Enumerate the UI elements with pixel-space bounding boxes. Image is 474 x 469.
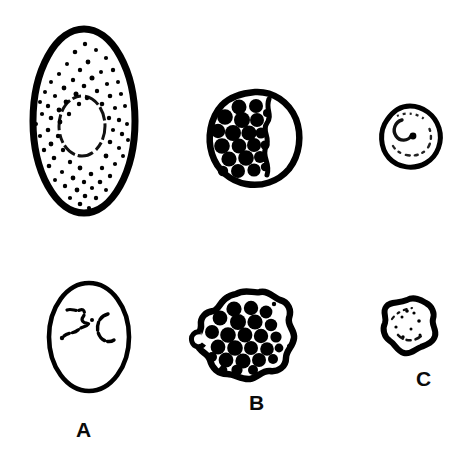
figure-label-a: A	[76, 419, 92, 440]
cell-comparison-figure: A B C	[0, 0, 474, 469]
specimen-b-top	[203, 87, 307, 191]
specimen-c-top	[375, 102, 445, 172]
specimen-a-top	[18, 18, 150, 228]
nucleus-outline	[59, 96, 105, 156]
specimen-a-bottom	[38, 274, 140, 400]
figure-label-b: B	[249, 392, 265, 413]
specimen-c-bottom	[376, 291, 446, 365]
figure-label-c: C	[416, 368, 432, 389]
internal-dot	[410, 133, 417, 140]
cell-membrane	[384, 298, 436, 353]
specimen-b-bottom	[188, 284, 308, 396]
